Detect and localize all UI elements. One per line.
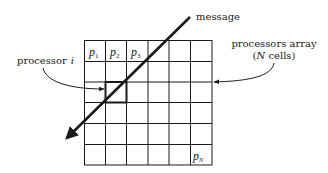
processor-array-diagram: p1 p2 p3 pN message processori processor… [0, 0, 328, 173]
n-cells-label: (N cells) [253, 50, 296, 61]
message-label: message [196, 11, 240, 22]
processors-array-label: processors array [231, 38, 317, 49]
cell-label-p3: p3 [130, 45, 141, 60]
processor-i-cell [106, 82, 127, 103]
processor-i-label: processori [17, 55, 74, 66]
message-arrow [67, 17, 190, 138]
cell-label-pN: pN [192, 149, 204, 163]
cell-label-p2: p2 [109, 45, 120, 60]
cell-label-p1: p1 [88, 45, 99, 60]
processor-i-pointer-arrow [43, 68, 104, 89]
processors-array-pointer-arrow [214, 63, 274, 82]
